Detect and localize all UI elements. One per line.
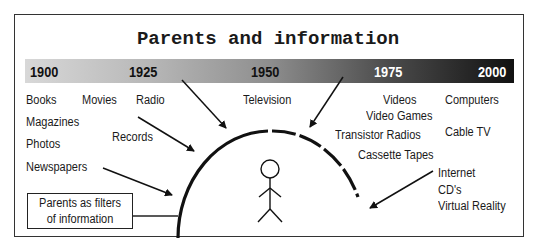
parent-shield-arc-solid bbox=[178, 131, 268, 238]
arrow-internet bbox=[370, 171, 433, 208]
arrow-1925 bbox=[182, 80, 226, 128]
child-stick-figure-icon bbox=[258, 160, 282, 222]
diagram-graphics bbox=[0, 0, 536, 249]
arrow-1975 bbox=[310, 77, 343, 127]
arrow-newspapers bbox=[103, 168, 172, 195]
parent-shield-arc-dashed bbox=[272, 131, 358, 197]
arrow-radio bbox=[138, 117, 194, 151]
